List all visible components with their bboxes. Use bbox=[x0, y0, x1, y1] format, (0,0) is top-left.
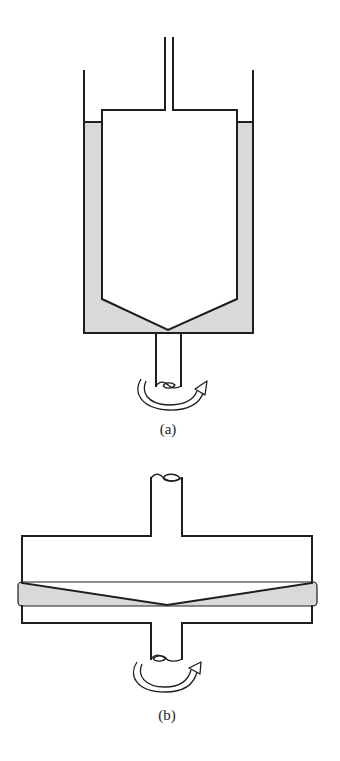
panel-a bbox=[84, 38, 253, 410]
panel-b bbox=[18, 474, 317, 692]
caption-b: (b) bbox=[158, 707, 176, 724]
viscometer-diagram bbox=[0, 0, 340, 761]
lower-plate bbox=[22, 606, 312, 659]
rotation-arrow-icon bbox=[133, 662, 201, 692]
inner-bob-fill bbox=[102, 110, 237, 330]
caption-a: (a) bbox=[160, 421, 177, 438]
drive-shaft-a bbox=[156, 334, 181, 388]
